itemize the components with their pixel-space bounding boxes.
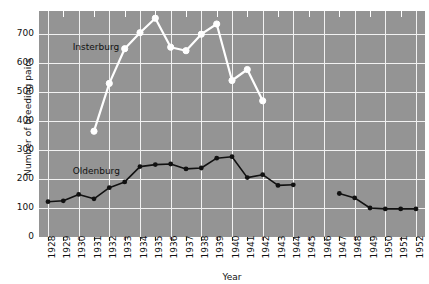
data-point	[106, 80, 112, 86]
x-tick-label: 1942	[262, 236, 271, 259]
x-tick-label: 1931	[93, 236, 102, 259]
series-insterburg	[91, 15, 266, 134]
y-tick-label: 200	[8, 174, 34, 183]
x-axis-tick-labels: 1928192919301931193219331934193519361937…	[39, 241, 425, 271]
x-tick-label: 1936	[170, 236, 179, 259]
data-point	[91, 128, 97, 134]
series-label-insterburg: Insterburg	[73, 42, 120, 52]
x-tick-label: 1935	[154, 236, 163, 259]
x-tick-label: 1944	[292, 236, 301, 259]
data-point	[137, 30, 143, 36]
x-tick-label: 1950	[384, 236, 393, 259]
x-axis-title: Year	[39, 272, 425, 282]
y-tick-label: 100	[8, 203, 34, 212]
y-tick-label: 700	[8, 29, 34, 38]
x-tick-label: 1938	[200, 236, 209, 259]
data-point	[244, 66, 250, 72]
data-point	[76, 192, 81, 197]
data-point	[138, 164, 143, 169]
data-point	[260, 98, 266, 104]
y-tick-label: 600	[8, 58, 34, 67]
data-point	[153, 162, 158, 167]
data-point	[337, 191, 342, 196]
data-point	[107, 185, 112, 190]
chart-figure: Number of breeding pairs 010020030040050…	[0, 0, 429, 284]
data-point	[184, 167, 189, 172]
series-oldenburg	[46, 154, 419, 211]
x-tick-label: 1932	[108, 236, 117, 259]
y-tick-label: 300	[8, 145, 34, 154]
x-tick-label: 1928	[47, 236, 56, 259]
x-tick-label: 1940	[231, 236, 240, 259]
x-tick-label: 1933	[124, 236, 133, 259]
y-tick-label: 500	[8, 87, 34, 96]
data-point	[92, 196, 97, 201]
x-tick-label: 1929	[62, 236, 71, 259]
data-point	[414, 207, 419, 212]
data-point	[383, 207, 388, 212]
x-tick-label: 1941	[246, 236, 255, 259]
data-point	[183, 48, 189, 54]
data-point	[199, 166, 204, 171]
data-point	[291, 182, 296, 187]
x-tick-label: 1945	[308, 236, 317, 259]
data-point	[260, 172, 265, 177]
data-point	[214, 156, 219, 161]
series-label-oldenburg: Oldenburg	[73, 166, 120, 176]
data-point	[245, 175, 250, 180]
x-tick-label: 1946	[323, 236, 332, 259]
x-tick-label: 1949	[369, 236, 378, 259]
x-tick-label: 1930	[78, 236, 87, 259]
data-point	[368, 206, 373, 211]
data-point	[122, 180, 127, 185]
data-point	[230, 154, 235, 159]
data-point	[168, 44, 174, 50]
data-point	[352, 196, 357, 201]
data-point	[152, 15, 158, 21]
x-tick-label: 1943	[277, 236, 286, 259]
data-point	[198, 31, 204, 37]
series-line	[339, 194, 416, 209]
y-axis-tick-labels: 0100200300400500600700	[4, 0, 34, 284]
data-point	[168, 162, 173, 167]
data-point	[46, 199, 51, 204]
x-tick-label: 1934	[139, 236, 148, 259]
data-point	[229, 77, 235, 83]
x-tick-label: 1952	[415, 236, 424, 259]
data-point	[214, 21, 220, 27]
data-point	[276, 183, 281, 188]
series-line	[94, 18, 263, 131]
x-tick-label: 1948	[354, 236, 363, 259]
data-point	[398, 207, 403, 212]
x-tick-label: 1951	[400, 236, 409, 259]
y-tick-label: 400	[8, 116, 34, 125]
data-point	[122, 46, 128, 52]
data-point	[61, 198, 66, 203]
y-tick-label: 0	[8, 232, 34, 241]
x-tick-label: 1937	[185, 236, 194, 259]
x-tick-label: 1947	[338, 236, 347, 259]
x-tick-label: 1939	[216, 236, 225, 259]
